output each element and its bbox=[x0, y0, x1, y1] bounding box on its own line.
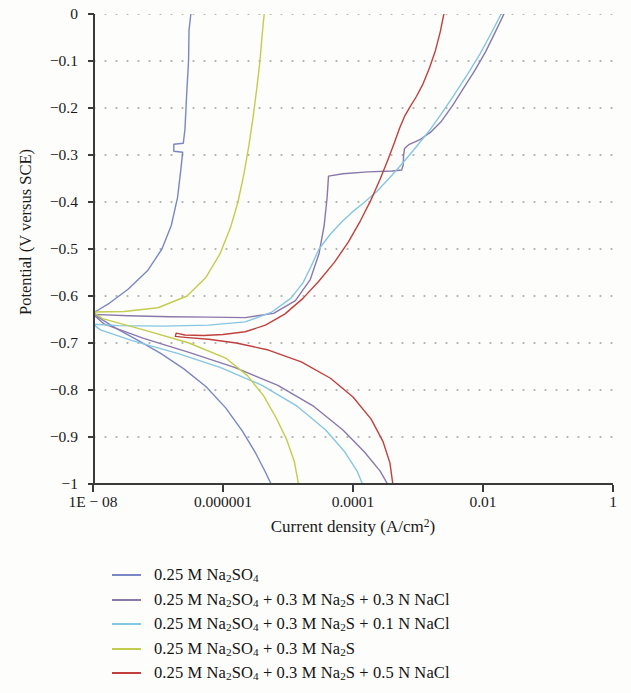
y-tick-mark bbox=[88, 60, 94, 61]
legend-item[interactable]: 0.25 M Na2SO4 + 0.3 M Na2S bbox=[112, 637, 612, 662]
legend-label: 0.25 M Na2SO4 + 0.3 M Na2S + 0.1 N NaCl bbox=[154, 614, 450, 634]
x-tick-mark bbox=[222, 485, 223, 492]
legend-item[interactable]: 0.25 M Na2SO4 + 0.3 M Na2S + 0.3 N NaCl bbox=[112, 588, 612, 613]
y-tick-label: 0 bbox=[22, 6, 78, 22]
y-tick-mark bbox=[88, 436, 94, 437]
y-tick-label: −1 bbox=[22, 476, 78, 492]
y-tick-mark bbox=[88, 295, 94, 296]
polarization-curve-figure: 0−0.1−0.2−0.3−0.4−0.5−0.6−0.7−0.8−0.9−1 … bbox=[0, 0, 631, 693]
x-tick-label: 0.000001 bbox=[153, 494, 293, 510]
legend-color-swatch bbox=[112, 574, 141, 576]
series-curve bbox=[93, 14, 504, 484]
y-axis-title: Potential (V versus SCE) bbox=[16, 22, 36, 442]
legend-label: 0.25 M Na2SO4 + 0.3 M Na2S bbox=[154, 639, 355, 659]
x-tick-label: 1 bbox=[543, 494, 631, 510]
x-axis-title-text: Current density (A/cm bbox=[271, 517, 424, 536]
legend-color-swatch bbox=[112, 648, 141, 650]
x-tick-label: 1E − 08 bbox=[23, 494, 163, 510]
series-curve bbox=[93, 14, 298, 484]
x-tick-mark bbox=[92, 485, 93, 492]
x-tick-label: 0.01 bbox=[413, 494, 553, 510]
y-tick-mark bbox=[88, 248, 94, 249]
x-tick-mark bbox=[352, 485, 353, 492]
legend-label: 0.25 M Na2SO4 bbox=[154, 565, 259, 585]
x-tick-mark bbox=[482, 485, 483, 492]
x-tick-mark bbox=[612, 485, 613, 492]
plot-area bbox=[93, 14, 613, 484]
series-curve bbox=[93, 14, 501, 484]
legend: 0.25 M Na2SO40.25 M Na2SO4 + 0.3 M Na2S … bbox=[112, 563, 612, 686]
legend-item[interactable]: 0.25 M Na2SO4 + 0.3 M Na2S + 0.1 N NaCl bbox=[112, 612, 612, 637]
legend-color-swatch bbox=[112, 672, 141, 674]
legend-item[interactable]: 0.25 M Na2SO4 + 0.3 M Na2S + 0.5 N NaCl bbox=[112, 661, 612, 686]
y-tick-mark bbox=[88, 342, 94, 343]
legend-label: 0.25 M Na2SO4 + 0.3 M Na2S + 0.3 N NaCl bbox=[154, 590, 450, 610]
y-tick-mark bbox=[88, 201, 94, 202]
legend-color-swatch bbox=[112, 599, 141, 601]
y-tick-mark bbox=[88, 154, 94, 155]
y-tick-mark bbox=[88, 107, 94, 108]
x-axis-title-close: ) bbox=[430, 517, 436, 536]
x-axis-title: Current density (A/cm2) bbox=[93, 517, 613, 537]
curves-svg bbox=[93, 14, 613, 484]
legend-color-swatch bbox=[112, 623, 141, 625]
legend-item[interactable]: 0.25 M Na2SO4 bbox=[112, 563, 612, 588]
y-tick-mark bbox=[88, 13, 94, 14]
x-tick-label: 0.0001 bbox=[283, 494, 423, 510]
legend-label: 0.25 M Na2SO4 + 0.3 M Na2S + 0.5 N NaCl bbox=[154, 663, 450, 683]
y-tick-mark bbox=[88, 389, 94, 390]
